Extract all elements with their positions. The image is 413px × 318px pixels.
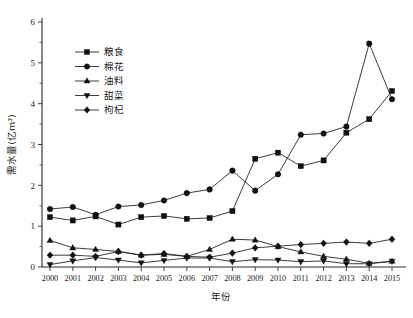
y-tick-label: 6 [31,17,36,27]
marker-triangle-down [138,261,144,266]
marker-diamond [84,107,90,114]
marker-diamond [115,248,121,255]
x-tick-label: 2009 [247,274,263,283]
series-0 [47,88,394,227]
series-line [50,44,392,215]
marker-circle [116,204,122,210]
y-tick-label: 2 [31,181,36,191]
x-tick-label: 2004 [133,274,149,283]
legend-item-2[interactable]: 油料 [75,75,124,86]
marker-triangle-up [93,246,99,251]
x-tick-label: 2002 [87,274,103,283]
line-chart: 0123456200020012002200320042005200620072… [0,0,413,318]
x-tick-label: 2006 [179,274,195,283]
y-tick-label: 0 [31,262,36,272]
x-tick-label: 2010 [270,274,286,283]
marker-diamond [93,253,99,260]
marker-square [367,117,372,122]
marker-square [47,215,52,220]
marker-triangle-up [252,237,258,242]
marker-circle [70,204,76,210]
x-tick-label: 2007 [201,274,217,283]
chart-container: 0123456200020012002200320042005200620072… [0,0,413,318]
legend-label: 甜菜 [104,90,124,101]
marker-square [70,218,75,223]
marker-square [85,50,90,55]
marker-square [207,215,212,220]
x-tick-label: 2011 [293,274,309,283]
marker-square [184,216,189,221]
marker-square [139,215,144,220]
x-tick-label: 2013 [338,274,354,283]
marker-circle [252,188,258,194]
marker-square [344,130,349,135]
marker-triangle-down [298,260,304,265]
x-axis-ticks: 2000200120022003200420052006200720082009… [42,267,400,283]
marker-diamond [184,253,190,260]
x-tick-label: 2001 [65,274,81,283]
marker-circle [366,41,372,47]
legend-item-4[interactable]: 枸杞 [75,104,124,115]
marker-square [116,222,121,227]
x-tick-label: 2012 [315,274,331,283]
marker-circle [93,212,99,218]
marker-square [275,150,280,155]
marker-circle [389,96,395,102]
y-axis-title: 需水量(亿m³) [6,114,17,174]
marker-diamond [138,252,144,259]
legend-label: 粮食 [104,46,124,57]
marker-triangle-down [84,94,90,99]
marker-diamond [366,240,372,247]
legend-item-1[interactable]: 棉花 [75,61,124,72]
marker-circle [47,206,53,212]
marker-diamond [343,239,349,246]
marker-circle [84,64,89,69]
marker-triangle-down [343,262,349,267]
marker-diamond [229,250,235,257]
marker-circle [230,168,236,174]
legend-label: 枸杞 [104,104,124,115]
y-tick-label: 3 [31,140,36,150]
marker-triangle-up [84,78,90,83]
marker-diamond [321,240,327,247]
y-axis-title-group: 需水量(亿m³) [6,114,17,174]
marker-square [321,158,326,163]
marker-circle [298,132,304,138]
x-tick-label: 2000 [42,274,58,283]
legend-item-0[interactable]: 粮食 [75,46,124,57]
axes-group [42,18,406,267]
marker-circle [344,124,350,130]
marker-circle [275,172,281,178]
marker-circle [184,190,190,196]
marker-square [161,213,166,218]
marker-diamond [207,254,213,261]
y-axis-ticks: 0123456 [31,17,43,272]
marker-diamond [47,252,53,259]
marker-square [230,208,235,213]
series-3 [47,256,395,268]
marker-square [389,88,394,93]
marker-diamond [298,241,304,248]
series-line [50,239,392,257]
marker-diamond [252,244,258,251]
marker-triangle-up [229,236,235,241]
x-tick-label: 2015 [384,274,400,283]
series-2 [47,236,395,265]
y-tick-label: 1 [31,221,36,231]
marker-diamond [70,252,76,259]
legend-item-3[interactable]: 甜菜 [75,90,124,101]
marker-circle [321,131,327,137]
marker-diamond [389,236,395,243]
marker-circle [207,187,213,193]
x-tick-label: 2008 [224,274,240,283]
x-tick-label: 2014 [361,274,377,283]
series-1 [47,41,395,218]
series-4 [47,236,395,261]
legend: 粮食棉花油料甜菜枸杞 [75,46,124,115]
legend-label: 棉花 [104,61,124,72]
x-axis-title: 年份 [211,291,231,302]
marker-circle [161,198,167,204]
x-tick-label: 2003 [110,274,126,283]
marker-square [253,156,258,161]
marker-triangle-down [275,258,281,263]
